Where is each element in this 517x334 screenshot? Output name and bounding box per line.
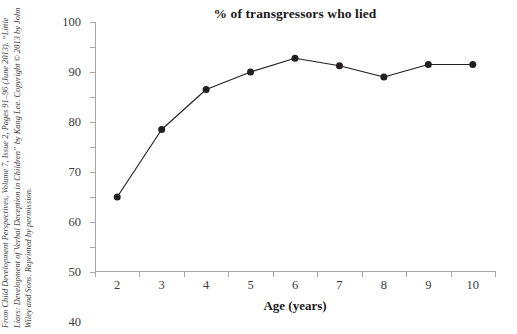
data-point	[158, 126, 165, 133]
data-point	[425, 61, 432, 68]
y-tick-label: 90	[69, 65, 82, 80]
plot-area: 0102030405060708090100 2345678910	[95, 22, 495, 271]
x-tick-label: 6	[292, 278, 298, 293]
bottom-caption	[60, 325, 500, 334]
y-tick-label: 70	[69, 165, 82, 180]
x-axis-title: Age (years)	[95, 298, 495, 314]
x-tick-label: 4	[203, 278, 209, 293]
attribution-credit-text: From Child Development Perspectives, Vol…	[0, 0, 35, 330]
attribution-credit-container: From Child Development Perspectives, Vol…	[0, 0, 56, 334]
data-point	[469, 61, 476, 68]
series-markers	[114, 55, 477, 201]
x-tick-label: 2	[114, 278, 120, 293]
x-tick-label: 10	[467, 278, 480, 293]
x-tick-mark	[495, 271, 496, 277]
data-point	[380, 74, 387, 81]
data-point	[203, 86, 210, 93]
data-point	[114, 194, 121, 201]
x-tick-label: 9	[425, 278, 431, 293]
y-tick-label: 80	[69, 115, 82, 130]
x-tick-label: 3	[159, 278, 165, 293]
series-polyline	[117, 58, 473, 197]
chart-title: % of transgressors who lied	[95, 6, 495, 22]
x-tick-label: 7	[336, 278, 342, 293]
x-tick-label: 8	[381, 278, 387, 293]
data-point	[247, 69, 254, 76]
data-point	[336, 62, 343, 69]
data-point	[292, 55, 299, 62]
y-tick-label: 50	[69, 265, 82, 280]
figure-container: From Child Development Perspectives, Vol…	[0, 0, 517, 334]
x-tick-label: 5	[247, 278, 253, 293]
data-series-line	[95, 22, 495, 272]
y-tick-label: 60	[69, 215, 82, 230]
y-tick-label: 100	[62, 15, 81, 30]
